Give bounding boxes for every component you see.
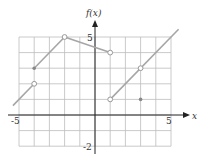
x-min-tick: -5 — [11, 116, 20, 126]
closed-point — [139, 98, 143, 102]
segment-4 — [110, 29, 178, 99]
y-min-tick: -2 — [83, 142, 92, 152]
curves — [13, 29, 179, 105]
y-axis-label: f(x) — [85, 8, 102, 18]
open-point — [108, 50, 113, 55]
open-point — [62, 35, 67, 40]
closed-point — [32, 66, 36, 70]
open-point — [108, 97, 113, 102]
segment-1 — [13, 84, 34, 106]
x-axis-arrow-icon — [183, 112, 190, 118]
y-max-tick: 5 — [87, 33, 93, 43]
function-graph: f(x) x -5 5 5 -2 — [0, 0, 201, 163]
open-point — [138, 66, 143, 71]
y-axis-arrow-icon — [92, 20, 98, 27]
axes — [8, 20, 190, 154]
open-point — [32, 81, 37, 86]
x-axis-label: x — [192, 111, 197, 121]
x-max-tick: 5 — [166, 116, 172, 126]
